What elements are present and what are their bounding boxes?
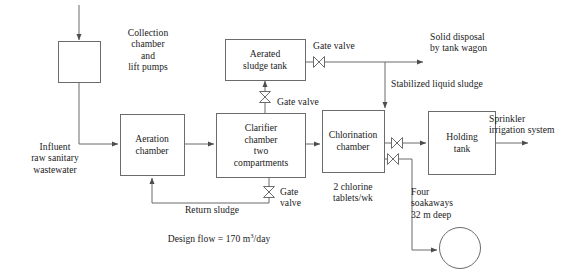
clarifier-chamber-label: Clarifier chamber two compartments bbox=[234, 122, 288, 168]
solid-disposal-label: Solid disposal by tank wagon bbox=[430, 31, 487, 54]
wastewater-flow-diagram: Aeration chamber Clarifier chamber two c… bbox=[0, 0, 585, 274]
holding-tank-label: Holding tank bbox=[446, 131, 477, 154]
collection-chamber-label: Collection chamber and lift pumps bbox=[128, 27, 168, 73]
aerated-sludge-tank-label: Aerated sludge tank bbox=[243, 48, 287, 71]
influent-label: Influent raw sanitary wastewater bbox=[31, 141, 79, 175]
gate-valve-sludge-tank-icon bbox=[314, 57, 325, 68]
sprinkler-label: Sprinkler irrigation system bbox=[489, 113, 555, 136]
gate-valve-holding-inlet-icon bbox=[392, 138, 403, 149]
return-sludge-label: Return sludge bbox=[185, 204, 239, 215]
gate-valve-sludge-tank-label: Gate valve bbox=[313, 40, 355, 51]
collection-chamber-box bbox=[59, 42, 101, 83]
gate-valve-soakaway-icon bbox=[388, 154, 399, 165]
design-flow-prefix: Design flow = 170 m bbox=[168, 233, 251, 244]
gate-valve-clarifier-top-label: Gate valve bbox=[277, 96, 319, 107]
chlorine-dose-label: 2 chlorine tablets/wk bbox=[333, 181, 373, 204]
design-flow-label: Design flow = 170 m3/day bbox=[168, 233, 271, 244]
return-sludge-line bbox=[152, 178, 269, 203]
soakaways-label: Four soakaways 32 m deep bbox=[411, 186, 453, 220]
diagram-canvas bbox=[0, 0, 585, 274]
collection-to-aeration-line bbox=[79, 83, 118, 145]
stabilized-liquid-sludge-label: Stabilized liquid sludge bbox=[391, 78, 483, 89]
chlorination-chamber-label: Chlorination chamber bbox=[329, 129, 378, 152]
design-flow-suffix: /day bbox=[254, 233, 271, 244]
aeration-chamber-label: Aeration chamber bbox=[135, 133, 169, 156]
gate-valve-clarifier-bottom-label: Gate valve bbox=[280, 186, 301, 209]
gate-valve-clarifier-bottom-icon bbox=[264, 187, 275, 198]
gate-valve-clarifier-top-icon bbox=[260, 92, 271, 103]
soakaway-circle bbox=[440, 228, 481, 269]
